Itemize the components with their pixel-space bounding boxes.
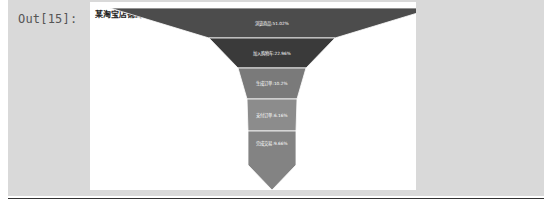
funnel-segment-label: 浏览商品:51.02% — [255, 20, 289, 27]
funnel-segment[interactable] — [248, 131, 296, 190]
output-cell: Out[15]: 某淘宝店铺的订单转化率漏斗图 生成订单 加入购物车 浏览商品 … — [8, 0, 544, 196]
funnel-chart: 某淘宝店铺的订单转化率漏斗图 生成订单 加入购物车 浏览商品 支付订单 完成交易 — [90, 2, 416, 190]
funnel-segment-label: 生成订单:10.2% — [256, 80, 287, 87]
funnel-segment-label: 完成交易:9.66% — [256, 140, 287, 147]
funnel-segment-label: 加入购物车:22.96% — [253, 50, 291, 57]
funnel-plot: 浏览商品:51.02%加入购物车:22.96%生成订单:10.2%支付订单:6.… — [90, 2, 416, 190]
output-prompt: Out[15]: — [18, 12, 77, 26]
cell-divider — [8, 198, 544, 199]
funnel-segment-label: 支付订单:6.16% — [256, 112, 287, 119]
